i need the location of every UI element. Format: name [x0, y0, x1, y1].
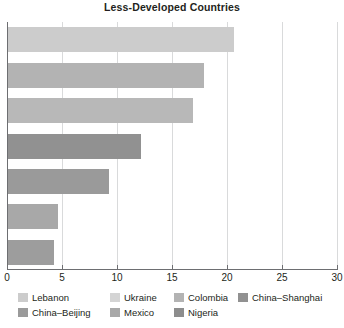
- legend-swatch-icon: [18, 293, 28, 302]
- bar-china-beijing: [8, 169, 109, 194]
- chart-legend: LebanonUkraineColombiaChina–Shanghai Chi…: [0, 292, 344, 326]
- bar-colombia: [8, 98, 193, 123]
- legend-swatch-icon: [238, 293, 248, 302]
- legend-label: Nigeria: [188, 307, 218, 318]
- x-axis-tick-labels: 051015202530: [0, 272, 344, 286]
- legend-label: Mexico: [124, 307, 154, 318]
- legend-item-colombia[interactable]: Colombia: [174, 292, 228, 303]
- legend-label: China–Shanghai: [252, 292, 322, 303]
- legend-item-lebanon[interactable]: Lebanon: [18, 292, 69, 303]
- legend-label: China–Beijing: [32, 307, 91, 318]
- gridline-30: [337, 22, 338, 269]
- legend-label: Ukraine: [124, 292, 157, 303]
- legend-swatch-icon: [174, 293, 184, 302]
- legend-item-china-beijing[interactable]: China–Beijing: [18, 307, 91, 318]
- tick-mark-30: [337, 265, 338, 270]
- plot-area: [7, 22, 337, 270]
- bar-chart: Less-Developed Countries 051015202530 Le…: [0, 0, 344, 328]
- bar-china-shanghai: [8, 134, 141, 159]
- x-tick-label-20: 20: [221, 272, 232, 283]
- legend-swatch-icon: [110, 308, 120, 317]
- legend-label: Colombia: [188, 292, 228, 303]
- bar-lebanon: [8, 27, 234, 52]
- chart-title: Less-Developed Countries: [0, 1, 344, 13]
- bar-mexico: [8, 204, 58, 229]
- x-tick-label-5: 5: [59, 272, 65, 283]
- x-tick-label-10: 10: [111, 272, 122, 283]
- bars-layer: [8, 22, 337, 270]
- legend-row-1: LebanonUkraineColombiaChina–Shanghai: [0, 292, 344, 307]
- x-tick-label-15: 15: [166, 272, 177, 283]
- legend-swatch-icon: [110, 293, 120, 302]
- legend-item-nigeria[interactable]: Nigeria: [174, 307, 218, 318]
- legend-label: Lebanon: [32, 292, 69, 303]
- legend-swatch-icon: [174, 308, 184, 317]
- legend-item-mexico[interactable]: Mexico: [110, 307, 154, 318]
- x-tick-label-30: 30: [331, 272, 342, 283]
- legend-swatch-icon: [18, 308, 28, 317]
- legend-item-china-shanghai[interactable]: China–Shanghai: [238, 292, 322, 303]
- x-tick-label-0: 0: [4, 272, 10, 283]
- legend-row-2: China–BeijingMexicoNigeria: [0, 307, 344, 322]
- x-tick-label-25: 25: [276, 272, 287, 283]
- bar-ukraine: [8, 63, 204, 88]
- legend-item-ukraine[interactable]: Ukraine: [110, 292, 157, 303]
- bar-nigeria: [8, 240, 54, 265]
